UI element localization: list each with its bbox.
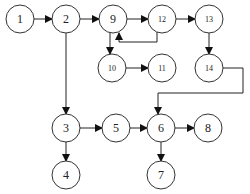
node-9: 9: [99, 5, 127, 33]
node-label: 13: [205, 15, 213, 24]
node-label: 2: [63, 12, 69, 26]
node-label: 12: [158, 15, 166, 24]
node-7: 7: [147, 161, 175, 189]
node-2: 2: [52, 5, 80, 33]
node-1: 1: [6, 5, 34, 33]
node-3: 3: [52, 114, 80, 142]
node-12: 12: [148, 5, 176, 33]
edge-12-9: [119, 32, 157, 42]
node-6: 6: [147, 114, 175, 142]
node-label: 6: [158, 121, 164, 135]
node-label: 11: [158, 64, 166, 73]
node-label: 10: [108, 64, 116, 73]
node-label: 5: [113, 121, 119, 135]
node-11: 11: [148, 54, 176, 82]
node-label: 7: [158, 168, 164, 182]
flow-graph-canvas: 1 2 9 12 13 10 11 14 3 5 6 8 4 7: [0, 0, 250, 194]
node-label: 9: [110, 12, 116, 26]
node-label: 3: [63, 121, 69, 135]
node-label: 8: [205, 121, 211, 135]
node-4: 4: [52, 161, 80, 189]
node-14: 14: [195, 54, 223, 82]
node-10: 10: [98, 54, 126, 82]
node-label: 1: [17, 12, 23, 26]
node-13: 13: [195, 5, 223, 33]
node-label: 4: [63, 168, 69, 182]
node-8: 8: [194, 114, 222, 142]
node-5: 5: [102, 114, 130, 142]
node-label: 14: [205, 64, 213, 73]
